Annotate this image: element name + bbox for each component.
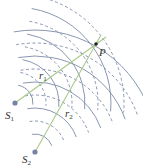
wavefront-arcs — [14, 0, 143, 146]
trough-arc-s1 — [29, 21, 98, 110]
point-p-dot — [94, 42, 98, 46]
source-label-s1: S1 — [5, 109, 15, 123]
path-label-r1: r1 — [39, 69, 47, 83]
path-line-r1 — [15, 37, 106, 103]
point-label: P — [98, 46, 106, 58]
crest-arc-s1 — [23, 60, 59, 107]
interference-diagram: S1S2Pr1r2 — [0, 0, 143, 165]
source-label-s2: S2 — [22, 153, 32, 165]
source-dot-s1 — [12, 100, 17, 105]
labels: S1S2Pr1r2 — [5, 46, 106, 165]
source-dot-s2 — [32, 149, 37, 154]
crest-arc-s2 — [14, 30, 143, 110]
